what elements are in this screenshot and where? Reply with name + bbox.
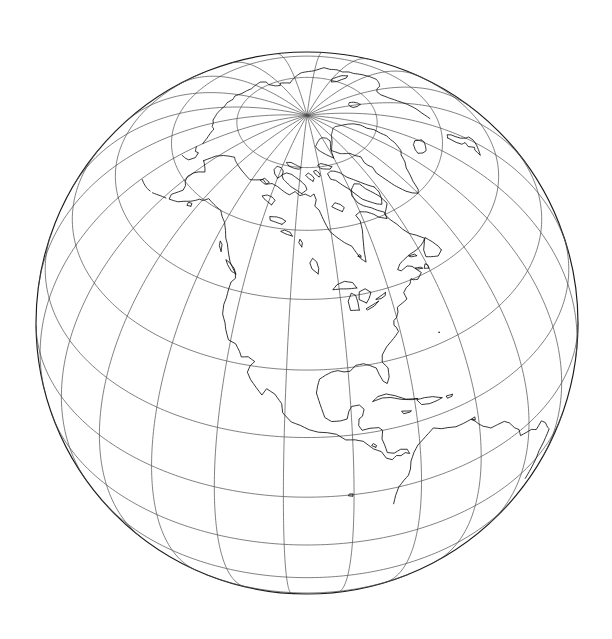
coast-bermuda xyxy=(439,332,440,333)
globe-figure xyxy=(0,0,612,639)
globe-map xyxy=(0,0,612,639)
globe-limb xyxy=(36,52,578,594)
